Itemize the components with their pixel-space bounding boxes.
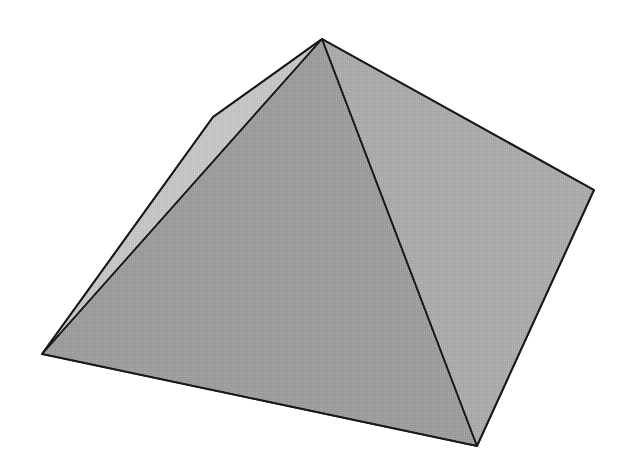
texture-overlay [42, 39, 594, 446]
pyramid-diagram [0, 0, 631, 474]
figure-canvas: square pyramid [0, 0, 631, 474]
pyramid [42, 39, 594, 446]
